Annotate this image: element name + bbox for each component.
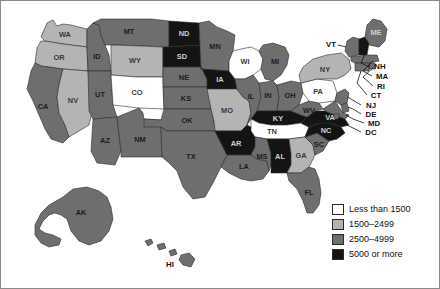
state-label-MS: MS: [256, 152, 267, 161]
state-label-IN: IN: [264, 91, 271, 100]
state-label-DC: DC: [365, 128, 377, 137]
state-label-AK: AK: [76, 208, 87, 217]
state-label-OH: OH: [284, 91, 295, 100]
state-label-CO: CO: [131, 88, 142, 97]
state-label-NY: NY: [320, 65, 330, 74]
legend-item[interactable]: 5000 or more: [332, 248, 436, 261]
state-NJ[interactable]: [335, 89, 349, 105]
state-label-WV: WV: [303, 106, 315, 115]
legend-swatch-0: [332, 204, 344, 215]
state-label-IA: IA: [216, 75, 224, 84]
state-HI-a[interactable]: [145, 239, 153, 246]
state-label-WY: WY: [129, 56, 141, 65]
state-label-ME: ME: [370, 28, 381, 37]
state-label-MN: MN: [209, 42, 221, 51]
state-label-CA: CA: [38, 102, 49, 111]
state-TX[interactable]: [161, 127, 227, 199]
legend-item[interactable]: 1500–2499: [332, 218, 436, 231]
state-label-KY: KY: [273, 114, 283, 123]
state-label-RI: RI: [377, 82, 385, 91]
state-label-MA: MA: [376, 72, 388, 81]
leader-line-DE: [348, 107, 361, 114]
state-label-NC: NC: [321, 126, 332, 135]
state-label-NH: NH: [374, 62, 386, 71]
state-label-TX: TX: [186, 152, 196, 161]
state-label-AZ: AZ: [100, 136, 110, 145]
state-label-CT: CT: [371, 91, 382, 100]
state-label-AR: AR: [231, 139, 242, 148]
state-label-OK: OK: [181, 116, 193, 125]
state-label-TN: TN: [267, 127, 277, 136]
legend-swatch-1: [332, 219, 344, 230]
legend-label-3: 5000 or more: [349, 249, 403, 260]
legend-label-1: 1500–2499: [349, 219, 394, 230]
state-AK[interactable]: [35, 187, 113, 247]
state-label-MO: MO: [221, 106, 233, 115]
state-label-FL: FL: [304, 188, 314, 197]
leader-line-NJ: [347, 97, 361, 105]
state-HI-c[interactable]: [169, 249, 177, 256]
state-label-WI: WI: [240, 57, 249, 66]
legend-item[interactable]: Less than 1500: [332, 203, 436, 216]
state-label-MI: MI: [271, 57, 279, 66]
state-NM[interactable]: [117, 108, 162, 157]
state-VT[interactable]: [345, 37, 359, 57]
state-label-NV: NV: [68, 96, 78, 105]
state-label-UT: UT: [95, 90, 105, 99]
state-label-LA: LA: [239, 162, 250, 171]
state-label-WA: WA: [59, 30, 72, 39]
state-label-AL: AL: [275, 152, 285, 161]
leader-line-MD: [346, 115, 364, 123]
state-label-ID: ID: [93, 52, 101, 61]
state-HI-b[interactable]: [157, 243, 166, 250]
state-label-MD: MD: [368, 119, 380, 128]
map-legend: Less than 1500 1500–2499 2500–4999 5000 …: [332, 203, 436, 261]
state-label-NE: NE: [179, 73, 189, 82]
state-HI-d[interactable]: [179, 253, 195, 267]
state-label-NM: NM: [134, 135, 146, 144]
legend-item[interactable]: 2500–4999: [332, 233, 436, 246]
state-label-GA: GA: [295, 151, 307, 160]
state-label-SC: SC: [314, 140, 325, 149]
state-label-VT: VT: [326, 40, 336, 49]
state-label-IL: IL: [248, 92, 255, 101]
legend-label-2: 2500–4999: [349, 234, 394, 245]
state-label-NJ: NJ: [366, 101, 376, 110]
state-label-KS: KS: [181, 94, 191, 103]
state-label-HI: HI: [166, 260, 174, 269]
legend-label-0: Less than 1500: [349, 204, 411, 215]
choropleth-map-figure: WA OR CA NV ID MT WY UT CO AZ NM ND SD N…: [0, 0, 440, 289]
leader-line-VT: [338, 45, 346, 47]
state-label-VA: VA: [325, 113, 335, 122]
state-label-SD: SD: [177, 52, 188, 61]
state-label-DE: DE: [366, 110, 377, 119]
state-label-ND: ND: [179, 29, 190, 38]
state-label-MT: MT: [124, 27, 135, 36]
legend-swatch-2: [332, 234, 344, 245]
state-label-OR: OR: [53, 53, 65, 62]
state-label-PA: PA: [313, 87, 323, 96]
legend-swatch-3: [332, 249, 344, 260]
